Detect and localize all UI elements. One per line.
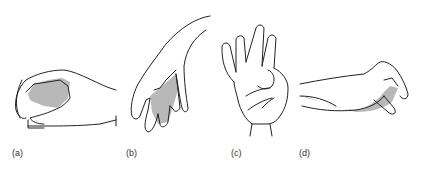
hand-d-illustration	[300, 62, 408, 114]
panel-label-d: (d)	[299, 148, 310, 158]
panel-label-c: (c)	[231, 148, 242, 158]
hand-illustrations	[0, 0, 421, 172]
hand-figure: (a) (b) (c) (d)	[0, 0, 421, 172]
panel-label-a: (a)	[12, 148, 23, 158]
panel-label-b: (b)	[126, 148, 137, 158]
hand-a-illustration	[15, 70, 116, 128]
hand-c-illustration	[222, 25, 288, 136]
hand-b-illustration	[131, 16, 210, 132]
